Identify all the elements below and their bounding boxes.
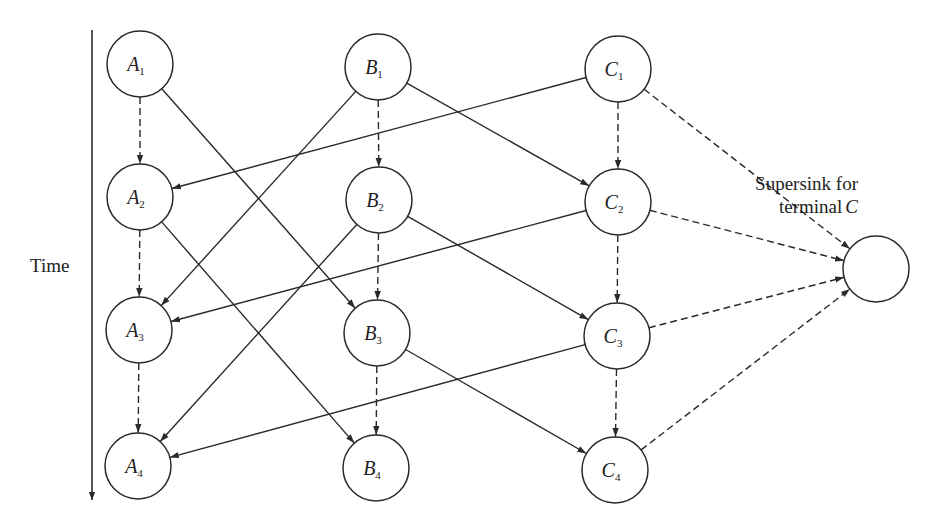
node-circle xyxy=(345,34,411,100)
supersink-label-line2: terminalC xyxy=(779,196,858,217)
edge-b2-to-c3 xyxy=(408,216,589,319)
node-c2: C2 xyxy=(585,169,651,235)
edges xyxy=(138,78,850,458)
edge-c2-to-c3 xyxy=(617,235,618,303)
node-b4: B4 xyxy=(343,435,409,501)
node-circle xyxy=(106,297,172,363)
edge-c3-to-sink xyxy=(649,277,844,327)
edge-a2-to-a3 xyxy=(139,230,140,297)
node-circle xyxy=(105,433,171,499)
node-circle xyxy=(582,437,648,503)
time-axis-label: Time xyxy=(30,255,69,276)
edge-b2-to-a4 xyxy=(160,225,357,442)
edge-c4-to-sink xyxy=(641,289,850,450)
node-circle xyxy=(344,300,410,366)
edge-a2-to-b4 xyxy=(162,222,355,443)
node-c1: C1 xyxy=(585,36,651,102)
node-b2: B2 xyxy=(346,167,412,233)
node-c4: C4 xyxy=(582,437,648,503)
edge-c2-to-sink xyxy=(650,210,844,260)
node-circle xyxy=(343,435,409,501)
edge-c3-to-c4 xyxy=(616,369,617,437)
node-circle xyxy=(585,169,651,235)
edge-a3-to-a4 xyxy=(138,363,139,433)
node-a1: A1 xyxy=(107,31,173,97)
edge-c1-to-sink xyxy=(644,89,850,249)
node-b1: B1 xyxy=(345,34,411,100)
node-b3: B3 xyxy=(344,300,410,366)
time-expanded-network-diagram: Time A1A2A3A4B1B2B3B4C1C2C3C4 Supersink … xyxy=(0,0,942,523)
edge-b3-to-c4 xyxy=(406,350,587,454)
node-a3: A3 xyxy=(106,297,172,363)
node-circle xyxy=(346,167,412,233)
edge-b1-to-c2 xyxy=(407,83,589,186)
supersink: Supersink for terminalC xyxy=(755,173,909,302)
node-c3: C3 xyxy=(584,303,650,369)
node-circle xyxy=(107,164,173,230)
edge-b1-to-a3 xyxy=(161,91,356,305)
supersink-label-line1: Supersink for xyxy=(755,173,859,194)
node-circle xyxy=(584,303,650,369)
node-circle xyxy=(107,31,173,97)
time-axis: Time xyxy=(30,30,92,500)
node-circle xyxy=(585,36,651,102)
node-a2: A2 xyxy=(107,164,173,230)
supersink-node xyxy=(843,236,909,302)
node-a4: A4 xyxy=(105,433,171,499)
